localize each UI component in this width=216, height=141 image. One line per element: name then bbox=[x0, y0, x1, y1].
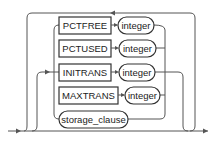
param-label: integer bbox=[128, 90, 157, 101]
arrow-icon bbox=[115, 70, 119, 74]
arrow-icon bbox=[114, 23, 118, 27]
keyword-label: INITRANS bbox=[63, 67, 107, 78]
choice-entry bbox=[32, 72, 59, 131]
entry-arrow-icon bbox=[16, 129, 21, 134]
param-label: integer bbox=[123, 43, 152, 54]
loop-arrow-icon bbox=[110, 11, 115, 16]
row-storage-clause: storage_clause bbox=[59, 111, 128, 128]
row-maxtrans: MAXTRANS integer bbox=[59, 87, 160, 104]
arrow-icon bbox=[115, 46, 119, 50]
clause-label: storage_clause bbox=[61, 114, 125, 125]
keyword-label: PCTFREE bbox=[63, 20, 107, 31]
choice-exit bbox=[155, 72, 188, 131]
row-pctfree: PCTFREE integer bbox=[59, 17, 154, 34]
param-label: integer bbox=[121, 20, 150, 31]
arrow-icon bbox=[121, 93, 125, 97]
keyword-label: PCTUSED bbox=[62, 43, 108, 54]
railroad-svg: PCTFREE integer PCTUSED integer INITRANS… bbox=[0, 0, 216, 141]
choice-arrow-icon bbox=[45, 70, 50, 75]
param-label: integer bbox=[122, 67, 151, 78]
row-pctused: PCTUSED integer bbox=[59, 40, 156, 57]
keyword-label: MAXTRANS bbox=[62, 90, 115, 101]
syntax-diagram: PCTFREE integer PCTUSED integer INITRANS… bbox=[0, 0, 216, 141]
row-initrans: INITRANS integer bbox=[59, 64, 155, 81]
exit-arrow-icon bbox=[203, 129, 208, 134]
